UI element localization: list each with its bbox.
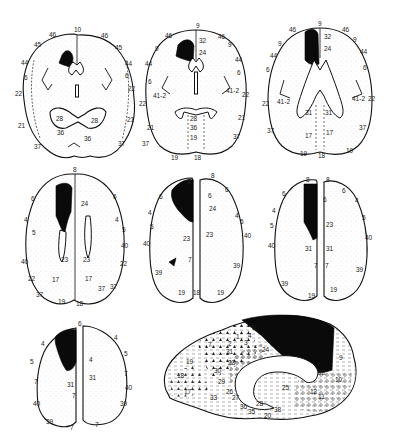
axial-slice-7: 6 4 4 5 5 4 31 31 7 7 7 40 40 39 39 7 7 <box>30 320 133 431</box>
label: 9 <box>353 36 357 43</box>
label: 40 <box>121 242 129 249</box>
label: 23 <box>61 256 69 263</box>
label: 41-2 <box>352 95 365 102</box>
label: 46 <box>218 33 226 40</box>
axial-slice-6: 8 8 6 6 6 4 4 5 5 40 40 23 31 31 7 7 39 … <box>268 176 373 301</box>
label: 6 <box>31 195 35 202</box>
label: 19 <box>308 292 316 299</box>
label: 18 <box>318 152 326 159</box>
medial-sagittal-view: 6 4 3 1 2 7 31 23 24 32 9 10 19 18 17 30… <box>164 315 356 419</box>
label: 35 <box>248 408 256 415</box>
label: 46 <box>101 32 109 39</box>
label: 41-2 <box>277 98 290 105</box>
label: 23 <box>228 359 236 366</box>
label: 46 <box>49 31 57 38</box>
label: 37 <box>118 140 126 147</box>
label: 39 <box>120 400 128 407</box>
label: 24 <box>199 49 207 56</box>
label: 6 <box>78 320 82 327</box>
label: 23 <box>183 235 191 242</box>
label: 19 <box>178 289 186 296</box>
label: 7 <box>325 262 329 269</box>
label: 6 <box>148 78 152 85</box>
label: 21 <box>238 114 246 121</box>
label: 4 <box>89 356 93 363</box>
label: 18 <box>76 300 84 307</box>
label: 37 <box>34 143 42 150</box>
label: 31 <box>325 109 333 116</box>
label: 38 <box>274 406 282 413</box>
label: 8 <box>187 178 191 185</box>
label: 9 <box>228 41 232 48</box>
label: 5 <box>32 229 36 236</box>
label: 5 <box>150 223 154 230</box>
label: 6 <box>113 193 117 200</box>
axial-slice-4: 8 6 6 24 4 4 5 5 40 40 22 22 23 23 37 37… <box>21 166 129 307</box>
label: 37 <box>359 124 367 131</box>
label: 40 <box>244 232 252 239</box>
label: 37 <box>233 133 241 140</box>
label: 39 <box>233 262 241 269</box>
label: 6 <box>252 324 256 331</box>
label: 46 <box>342 26 350 33</box>
label: 24 <box>324 45 332 52</box>
label: 7 <box>72 392 76 399</box>
label: 32 <box>318 369 326 376</box>
label: 22 <box>120 260 128 267</box>
brain-figure: 10 46 46 45 45 44 44 6 6 22 22 21 21 37 … <box>0 0 395 444</box>
label: 32 <box>199 37 207 44</box>
label: 8 <box>306 176 310 183</box>
label: 4 <box>115 216 119 223</box>
label: 4 <box>235 212 239 219</box>
label: 40 <box>33 400 41 407</box>
label: 19 <box>171 154 179 161</box>
label: 24 <box>81 200 89 207</box>
label: 7 <box>95 421 99 428</box>
label: 22 <box>128 85 136 92</box>
label: 7 <box>208 341 212 348</box>
label: 30 <box>214 367 222 374</box>
label: 45 <box>115 44 123 51</box>
label: 44 <box>235 56 243 63</box>
label: 28 <box>256 400 264 407</box>
label: 39 <box>356 266 364 273</box>
label: 23 <box>326 221 334 228</box>
label: 3 <box>244 339 248 346</box>
label: 31 <box>67 381 75 388</box>
label: 7 <box>124 370 128 377</box>
label: 19 <box>58 298 66 305</box>
label: 45 <box>34 41 42 48</box>
label: 4 <box>355 197 359 204</box>
label: 21 <box>18 122 26 129</box>
label: 17 <box>184 388 192 395</box>
label: 31 <box>305 245 313 252</box>
label: 8 <box>73 166 77 173</box>
label: 39 <box>155 269 163 276</box>
label: 31 <box>305 109 313 116</box>
label: 5 <box>240 218 244 225</box>
label: 10 <box>335 376 343 383</box>
label: 6 <box>266 66 270 73</box>
label: 44 <box>21 59 29 66</box>
axial-slice-5: 8 8 6 6 6 24 4 4 5 5 40 40 23 23 7 39 39… <box>143 172 252 303</box>
label: 22 <box>28 275 36 282</box>
label: 21 <box>127 116 135 123</box>
label: 4 <box>114 334 118 341</box>
label: 9 <box>155 45 159 52</box>
label: 4 <box>248 332 252 339</box>
label: 31 <box>89 374 97 381</box>
label: 28 <box>56 115 64 122</box>
label: 37 <box>98 285 106 292</box>
label: 29 <box>218 378 226 385</box>
label: 4 <box>41 340 45 347</box>
label: 9 <box>278 40 282 47</box>
label: 6 <box>159 193 163 200</box>
label: 28 <box>91 117 99 124</box>
label: 6 <box>237 69 241 76</box>
label: 36 <box>84 135 92 142</box>
label: 31 <box>326 245 334 252</box>
label: 27 <box>232 394 240 401</box>
label: 24 <box>209 205 217 212</box>
label: 6 <box>24 74 28 81</box>
label: 37 <box>142 140 150 147</box>
